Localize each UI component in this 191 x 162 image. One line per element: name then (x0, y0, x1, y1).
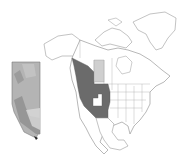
greenland (133, 12, 176, 50)
highlight-light-region (94, 60, 104, 82)
north-america-map (0, 0, 191, 162)
map-container (0, 0, 191, 162)
alberta-inset (12, 62, 40, 140)
arctic-islands (95, 28, 132, 48)
